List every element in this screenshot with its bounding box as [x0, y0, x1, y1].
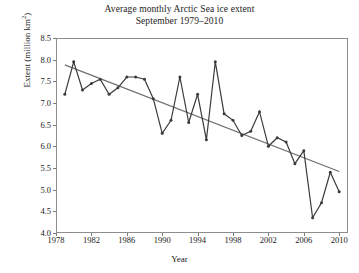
y-axis-label-exponent: 2 [20, 16, 27, 19]
x-tick-label: 1990 [142, 236, 182, 245]
x-tick-label: 1982 [71, 236, 111, 245]
y-tick-label: 6.0 [11, 142, 51, 151]
y-tick-label: 7.0 [11, 99, 51, 108]
y-tick-label: 8.0 [11, 56, 51, 65]
x-tick-mark [268, 233, 269, 236]
x-tick-mark [91, 233, 92, 236]
x-tick-label: 2010 [319, 236, 359, 245]
x-tick-mark [304, 233, 305, 236]
x-tick-mark [162, 233, 163, 236]
chart-title-block: Average monthly Arctic Sea ice extent Se… [0, 4, 359, 27]
y-tick-mark [53, 211, 56, 212]
y-tick-mark [53, 190, 56, 191]
x-tick-label: 2002 [248, 236, 288, 245]
x-tick-mark [127, 233, 128, 236]
x-tick-mark [198, 233, 199, 236]
y-tick-label: 8.5 [11, 34, 51, 43]
y-tick-mark [53, 125, 56, 126]
x-axis-label: Year [0, 254, 359, 264]
x-tick-label: 2006 [284, 236, 324, 245]
y-tick-label: 5.5 [11, 164, 51, 173]
y-tick-label: 5.0 [11, 186, 51, 195]
y-tick-mark [53, 81, 56, 82]
y-tick-mark [53, 103, 56, 104]
chart-subtitle: September 1979–2010 [0, 16, 359, 28]
x-tick-label: 1998 [213, 236, 253, 245]
y-tick-mark [53, 60, 56, 61]
y-tick-mark [53, 146, 56, 147]
chart-figure: Average monthly Arctic Sea ice extent Se… [0, 0, 359, 273]
y-tick-mark [53, 168, 56, 169]
x-tick-mark [56, 233, 57, 236]
y-tick-label: 6.5 [11, 121, 51, 130]
chart-title: Average monthly Arctic Sea ice extent [0, 4, 359, 16]
x-tick-label: 1994 [178, 236, 218, 245]
x-tick-mark [233, 233, 234, 236]
x-tick-label: 1986 [107, 236, 147, 245]
x-tick-mark [339, 233, 340, 236]
y-tick-label: 7.5 [11, 77, 51, 86]
x-tick-label: 1978 [36, 236, 76, 245]
y-tick-mark [53, 38, 56, 39]
plot-area [56, 38, 348, 233]
y-axis-label-paren: ) [22, 13, 32, 16]
y-tick-label: 4.5 [11, 207, 51, 216]
